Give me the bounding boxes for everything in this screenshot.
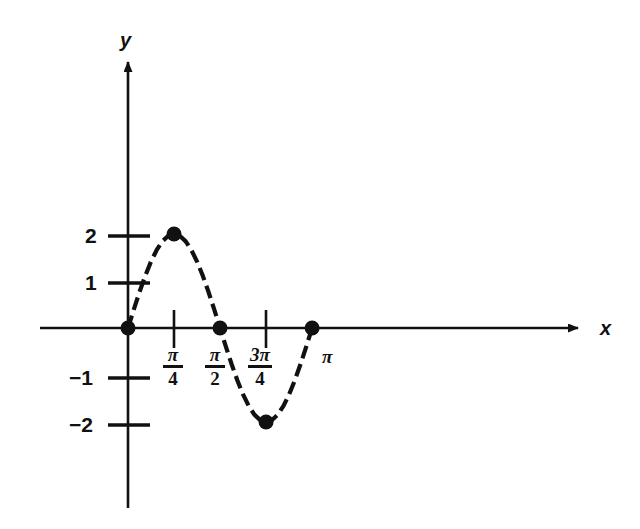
fraction-numerator: π: [208, 345, 222, 365]
x-tick-label-pi: π: [322, 347, 332, 366]
data-point-zero-at-pi-over-2: [213, 321, 228, 336]
x-tick-label-pi-over-2: π 2: [205, 345, 225, 388]
x-tick-label-3pi-over-4: 3π 4: [248, 345, 272, 388]
x-axis-label: x: [600, 318, 611, 338]
fraction-numerator: π: [166, 345, 180, 365]
fraction-denominator: 4: [253, 368, 267, 388]
data-point-maximum: [167, 227, 182, 242]
y-axis-label: y: [120, 30, 131, 50]
fraction-numerator: 3π: [248, 345, 272, 365]
fraction-denominator: 4: [166, 368, 180, 388]
y-tick-label-neg2: −2: [69, 414, 93, 435]
fraction-denominator: 2: [208, 368, 222, 388]
y-tick-label-2: 2: [85, 225, 97, 246]
data-point-origin: [121, 321, 136, 336]
y-tick-label-neg1: −1: [69, 367, 93, 388]
y-tick-label-1: 1: [85, 272, 97, 293]
figure-canvas: y x 2 1 −1 −2 π 4 π 2 3π 4 π: [0, 0, 640, 529]
sine-curve-plot: [0, 0, 640, 529]
data-point-zero-at-pi: [305, 321, 320, 336]
x-tick-label-pi-over-4: π 4: [163, 345, 183, 388]
data-point-minimum: [259, 415, 274, 430]
